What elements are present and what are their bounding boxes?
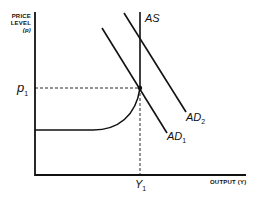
y-axis-label-line2: LEVEL (7, 20, 31, 27)
ad2-curve (124, 13, 186, 112)
ad1-curve (102, 28, 167, 133)
y1-label: Y1 (135, 178, 146, 192)
diagram-canvas (0, 0, 264, 200)
equilibrium-point (138, 86, 142, 90)
y-axis-label-line3: (p) (7, 27, 31, 34)
as-label-text: AS (145, 12, 160, 24)
ad1-label: AD1 (167, 130, 186, 144)
y1-label-sub: 1 (142, 185, 146, 192)
y-axis-label-line1: PRICE (7, 13, 31, 20)
p1-label: p1 (17, 80, 28, 97)
ad1-label-text: AD (167, 130, 182, 142)
y-axis-label: PRICE LEVEL (p) (7, 13, 31, 34)
ad2-label-text: AD (186, 111, 201, 123)
x-axis-label: OUTPUT (Y) (210, 179, 246, 186)
ad2-label: AD2 (186, 111, 205, 125)
as-curve (35, 12, 140, 130)
ad2-label-sub: 2 (201, 118, 205, 125)
x-axis-label-text: OUTPUT (Y) (210, 179, 246, 185)
ad1-label-sub: 1 (182, 137, 186, 144)
as-label: AS (145, 12, 160, 24)
p1-label-sub: 1 (24, 90, 28, 97)
